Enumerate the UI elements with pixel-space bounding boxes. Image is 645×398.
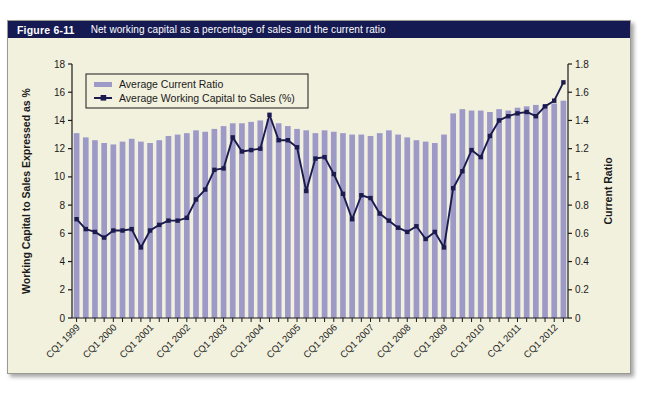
y-axis-right-tick-label: 0.2 xyxy=(575,284,589,295)
y-axis-right-tick-label: 0.4 xyxy=(575,256,589,267)
bar-swatch-icon xyxy=(94,82,112,87)
bar xyxy=(193,130,199,318)
data-point-marker xyxy=(442,245,446,249)
data-point-marker xyxy=(433,230,437,234)
bar xyxy=(74,133,80,318)
bar xyxy=(184,133,190,318)
data-point-marker xyxy=(515,111,519,115)
y-axis-right-tick-label: 1.6 xyxy=(575,87,589,98)
x-axis-tick-label: CQ1 2006 xyxy=(301,322,339,360)
bar xyxy=(230,123,236,318)
bar xyxy=(478,111,484,318)
bar xyxy=(460,109,466,318)
data-point-marker xyxy=(350,217,354,221)
data-point-marker xyxy=(111,228,115,232)
figure-title: Net working capital as a percentage of s… xyxy=(91,24,386,35)
bar xyxy=(423,142,429,318)
x-axis-tick-label: CQ1 2012 xyxy=(521,322,559,360)
bar xyxy=(524,106,530,318)
data-point-marker xyxy=(276,138,280,142)
bar xyxy=(331,132,337,318)
bar xyxy=(303,130,309,318)
x-axis-tick-label: CQ1 2001 xyxy=(117,322,155,360)
data-point-marker xyxy=(322,155,326,159)
y-axis-left-ticks: 024681012141618 xyxy=(54,59,72,324)
data-point-marker xyxy=(561,80,565,84)
data-point-marker xyxy=(313,156,317,160)
bar xyxy=(175,135,181,318)
y-axis-left-tick-label: 6 xyxy=(59,228,65,239)
data-point-marker xyxy=(295,145,299,149)
y-axis-right-tick-label: 1 xyxy=(575,171,581,182)
data-point-marker xyxy=(166,218,170,222)
figure-container: Figure 6-11 Net working capital as a per… xyxy=(7,20,631,374)
bar xyxy=(542,105,548,318)
data-point-marker xyxy=(84,227,88,231)
y-axis-right-tick-label: 1.2 xyxy=(575,143,589,154)
data-point-marker xyxy=(102,235,106,239)
x-axis-tick-label: CQ1 2009 xyxy=(411,322,449,360)
bar xyxy=(505,111,511,318)
data-point-marker xyxy=(286,138,290,142)
bar xyxy=(469,111,475,318)
data-point-marker xyxy=(524,110,528,114)
y-axis-right-tick-label: 1.8 xyxy=(575,59,589,70)
bar xyxy=(404,137,410,318)
bar xyxy=(377,133,383,318)
bar xyxy=(441,135,447,318)
y-axis-right-ticks: 00.20.40.60.811.21.41.61.8 xyxy=(568,59,589,324)
data-point-marker xyxy=(534,114,538,118)
bar xyxy=(561,101,567,318)
data-point-marker xyxy=(221,166,225,170)
data-point-marker xyxy=(341,192,345,196)
data-point-marker xyxy=(157,223,161,227)
x-axis-ticks: CQ1 1999CQ1 2000CQ1 2001CQ1 2002CQ1 2003… xyxy=(44,318,564,360)
y-axis-left-tick-label: 0 xyxy=(59,313,65,324)
data-point-marker xyxy=(139,245,143,249)
data-point-marker xyxy=(387,218,391,222)
chart-legend: Average Current RatioAverage Working Cap… xyxy=(86,74,308,108)
data-point-marker xyxy=(231,135,235,139)
bar xyxy=(551,104,557,318)
data-point-marker xyxy=(506,114,510,118)
bar xyxy=(450,113,456,318)
y-axis-left-title: Working Capital to Sales Expressed as % xyxy=(20,87,32,293)
y-axis-right-tick-label: 0.8 xyxy=(575,200,589,211)
y-axis-left-tick-label: 10 xyxy=(54,171,66,182)
data-point-marker xyxy=(405,230,409,234)
data-point-marker xyxy=(258,146,262,150)
bar xyxy=(368,136,374,318)
bar xyxy=(533,105,539,318)
data-point-marker xyxy=(148,228,152,232)
data-point-marker xyxy=(74,217,78,221)
bar xyxy=(496,109,502,318)
x-axis-tick-label: CQ1 2011 xyxy=(485,322,523,360)
legend-label-current-ratio: Average Current Ratio xyxy=(119,78,223,90)
chart-plot-area: 02468101214161800.20.40.60.811.21.41.61.… xyxy=(8,38,630,375)
y-axis-right-tick-label: 0 xyxy=(575,313,581,324)
bar xyxy=(276,123,282,318)
data-point-marker xyxy=(479,155,483,159)
data-point-marker xyxy=(368,196,372,200)
x-axis-tick-label: CQ1 2008 xyxy=(374,322,412,360)
data-point-marker xyxy=(212,168,216,172)
y-axis-left-tick-label: 2 xyxy=(59,284,65,295)
bar xyxy=(349,135,355,318)
bar xyxy=(267,119,273,318)
x-axis-tick-label: CQ1 2007 xyxy=(338,322,376,360)
data-point-marker xyxy=(423,237,427,241)
x-axis-tick-label: CQ1 2000 xyxy=(80,322,118,360)
x-axis-tick-label: CQ1 2003 xyxy=(191,322,229,360)
bar xyxy=(221,126,227,318)
bar xyxy=(166,136,172,318)
data-point-marker xyxy=(469,148,473,152)
x-axis-tick-label: CQ1 2005 xyxy=(264,322,302,360)
y-axis-left-tick-label: 12 xyxy=(54,143,66,154)
y-axis-left-tick-label: 16 xyxy=(54,87,66,98)
data-point-marker xyxy=(359,193,363,197)
bar xyxy=(386,130,392,318)
y-axis-right-title: Current Ratio xyxy=(602,157,614,224)
data-point-marker xyxy=(497,118,501,122)
data-point-marker xyxy=(120,228,124,232)
data-point-marker xyxy=(249,148,253,152)
